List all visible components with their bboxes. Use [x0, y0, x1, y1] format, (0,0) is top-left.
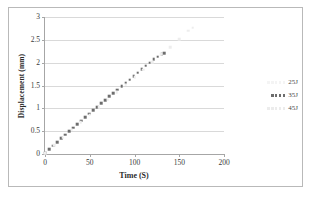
- x-tick-mark: [179, 154, 180, 157]
- data-point-45j: [115, 91, 118, 94]
- data-point-45j: [62, 136, 65, 139]
- data-point-35j: [100, 102, 103, 105]
- data-point-45j: [151, 61, 154, 64]
- data-point-35j: [136, 71, 139, 74]
- x-tick-label: 100: [129, 159, 140, 167]
- gridline-y: [45, 63, 224, 64]
- data-point-35j: [48, 148, 51, 151]
- data-point-35j: [76, 123, 79, 126]
- data-point-45j: [133, 76, 136, 79]
- x-tick-label: 200: [218, 159, 229, 167]
- data-point-45j: [187, 29, 190, 32]
- data-point-35j: [120, 85, 123, 88]
- y-tick-mark: [42, 40, 45, 41]
- x-tick-mark: [90, 154, 91, 157]
- y-tick-mark: [42, 17, 45, 18]
- gridline-y: [45, 40, 224, 41]
- x-tick-label: 150: [174, 159, 185, 167]
- legend-label-25j: 25J: [288, 79, 298, 86]
- legend-label-45j: 45J: [288, 105, 298, 112]
- legend-item-35j[interactable]: 35J: [246, 89, 298, 102]
- y-tick-label: 1.5: [31, 82, 40, 90]
- y-tick-label: 3: [36, 13, 40, 21]
- data-point-45j: [53, 144, 56, 147]
- legend-swatch-35j: [263, 94, 285, 96]
- data-point-45j: [142, 68, 145, 71]
- chart-legend: 25J 35J 45J: [246, 76, 298, 115]
- data-point-35j: [64, 134, 67, 137]
- gridline-y: [45, 86, 224, 87]
- data-point-45j: [124, 83, 127, 86]
- legend-item-25j[interactable]: 25J: [246, 76, 298, 89]
- data-point-45j: [88, 113, 91, 116]
- gridline-y: [45, 131, 224, 132]
- y-tick-mark: [42, 86, 45, 87]
- y-tick-label: 0.5: [31, 127, 40, 135]
- x-tick-mark: [224, 154, 225, 157]
- data-point-35j: [144, 65, 147, 68]
- x-tick-mark: [135, 154, 136, 157]
- y-tick-mark: [42, 63, 45, 64]
- data-point-45j: [106, 98, 109, 101]
- legend-label-35j: 35J: [288, 92, 298, 99]
- data-point-45j: [97, 106, 100, 109]
- y-tick-mark: [42, 108, 45, 109]
- data-point-45j: [44, 152, 47, 155]
- data-point-35j: [56, 141, 59, 144]
- data-point-35j: [156, 55, 159, 58]
- data-point-45j: [169, 46, 172, 49]
- x-tick-mark: [45, 154, 46, 157]
- y-tick-label: 1: [36, 105, 40, 113]
- data-point-45j: [80, 121, 83, 124]
- y-tick-label: 2.5: [31, 36, 40, 44]
- legend-swatch-25j: [263, 81, 285, 83]
- y-axis-title: Displacement (mm): [15, 17, 27, 155]
- y-tick-label: 0: [36, 150, 40, 158]
- legend-item-45j[interactable]: 45J: [246, 102, 298, 115]
- data-point-45j: [191, 26, 194, 29]
- x-axis-title: Time (S): [44, 171, 224, 180]
- gridline-y: [45, 108, 224, 109]
- data-point-45j: [160, 53, 163, 56]
- y-tick-mark: [42, 131, 45, 132]
- data-point-35j: [92, 109, 95, 112]
- x-tick-label: 0: [43, 159, 47, 167]
- data-point-35j: [84, 116, 87, 119]
- y-tick-label: 2: [36, 59, 40, 67]
- chart-figure: Displacement (mm) 00.511.522.53050100150…: [0, 0, 311, 201]
- legend-swatch-45j: [263, 107, 285, 109]
- data-point-45j: [178, 38, 181, 41]
- plot-area: 00.511.522.53050100150200: [44, 17, 224, 155]
- x-tick-label: 50: [86, 159, 94, 167]
- data-point-45j: [71, 128, 74, 131]
- data-point-35j: [163, 52, 166, 55]
- gridline-y: [45, 17, 224, 18]
- data-point-35j: [128, 78, 131, 81]
- data-point-35j: [108, 95, 111, 98]
